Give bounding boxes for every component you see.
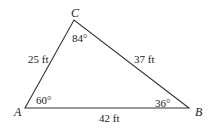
triangle-diagram: C A B 84° 60° 36° 25 ft 37 ft 42 ft xyxy=(0,0,209,135)
vertex-label-c: C xyxy=(71,6,80,20)
vertex-label-a: A xyxy=(13,105,22,119)
angle-label-a: 60° xyxy=(36,94,51,106)
side-label-ab: 42 ft xyxy=(99,112,119,124)
angle-label-c: 84° xyxy=(72,32,87,44)
side-label-ac: 25 ft xyxy=(28,53,48,65)
vertex-label-b: B xyxy=(195,105,203,119)
side-label-cb: 37 ft xyxy=(134,53,154,65)
angle-label-b: 36° xyxy=(155,97,170,109)
